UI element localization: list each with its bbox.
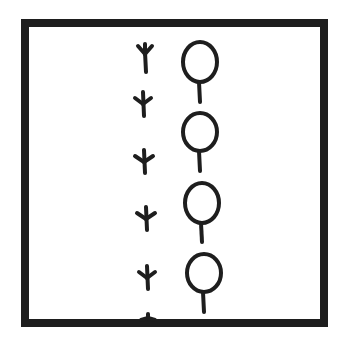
bird-footprint-icon	[135, 150, 153, 173]
bird-footprint-icon	[135, 92, 151, 116]
lollipop-icon	[183, 113, 217, 171]
bird-footprint-icon	[139, 266, 155, 289]
lollipop-icon	[185, 183, 219, 242]
lollipop-icon	[183, 42, 217, 102]
bird-footprint-icon	[137, 207, 155, 230]
bird-footprint-partial-icon	[141, 314, 155, 320]
lollipop-icon	[187, 254, 221, 312]
illustration	[0, 0, 344, 347]
bird-footprint-icon	[138, 44, 152, 72]
